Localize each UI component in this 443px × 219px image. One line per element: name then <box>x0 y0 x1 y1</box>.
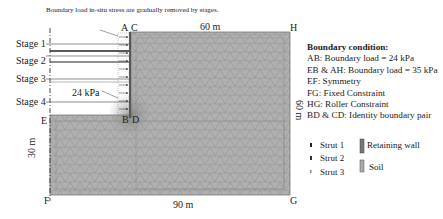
stage-3-label: Stage 3 <box>16 73 46 84</box>
strut-1-symbol <box>310 143 312 147</box>
bc-line: EF: Symmetry <box>307 76 437 87</box>
bc-line: EB & AH: Boundary load = 35 kPa <box>307 65 437 76</box>
bc-line: BD & CD: Identity boundary pair <box>307 110 437 121</box>
annotation-text: Boundary load in-situ stress are gradual… <box>46 6 146 14</box>
dim-bottom: 90 m <box>173 199 193 210</box>
stage-2-label: Stage 2 <box>16 55 46 66</box>
point-c: C <box>131 22 138 33</box>
strut-2-symbol <box>310 156 312 160</box>
boundary-condition-panel: Boundary condition: AB: Boundary load = … <box>307 42 437 122</box>
point-h: H <box>290 22 297 33</box>
legend-strut-2: Strut 2 <box>320 153 344 163</box>
bc-line: FG: Fixed Constraint <box>307 88 437 99</box>
boundary-condition-title: Boundary condition: <box>307 42 437 53</box>
legend-soil: Soil <box>369 162 384 172</box>
point-f: F <box>44 195 50 206</box>
point-a: A <box>121 22 128 33</box>
legend-retaining-wall: Retaining wall <box>367 140 420 150</box>
load-value-label: 24 kPa <box>72 87 100 98</box>
dim-top: 60 m <box>200 21 220 32</box>
dim-right: 60 m <box>294 100 305 120</box>
soil-mesh <box>50 32 290 195</box>
retaining-wall-symbol <box>360 139 364 153</box>
legend-strut-1: Strut 1 <box>320 140 344 150</box>
bc-line: HG: Roller Constraint <box>307 99 437 110</box>
strut-3-symbol <box>310 170 312 173</box>
point-g: G <box>290 195 297 206</box>
point-b: B <box>122 114 129 125</box>
annotation-leader <box>100 30 118 36</box>
retaining-wall <box>129 32 131 118</box>
bc-line: AB: Boundary load = 24 kPa <box>307 53 437 64</box>
dim-left: 30 m <box>26 138 37 158</box>
stage-1-label: Stage 1 <box>16 38 46 49</box>
point-e: E <box>41 115 47 126</box>
stage-4-label: Stage 4 <box>16 96 46 107</box>
load-leader <box>102 91 118 98</box>
soil-symbol <box>360 160 364 172</box>
legend-strut-3: Strut 3 <box>320 167 344 177</box>
point-d: D <box>132 114 139 125</box>
